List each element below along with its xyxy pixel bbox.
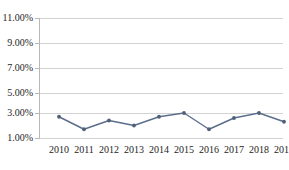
series-line (59, 113, 284, 129)
line-chart: 11.00% 9.00% 7.00% 5.00% 3.00% 1.00% 201… (0, 0, 289, 170)
data-point (182, 111, 186, 115)
data-series-layer (0, 0, 289, 170)
data-point (82, 127, 86, 131)
data-point (257, 111, 261, 115)
data-point (282, 120, 286, 124)
data-point (157, 115, 161, 119)
data-point (107, 119, 111, 123)
data-point (232, 116, 236, 120)
data-point (207, 127, 211, 131)
data-point (57, 115, 61, 119)
data-point (132, 124, 136, 128)
